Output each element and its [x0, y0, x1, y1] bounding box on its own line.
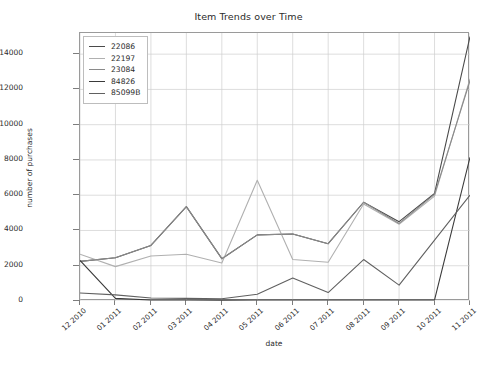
x-axis-label: date	[79, 339, 469, 348]
figure-canvas: Item Trends over Time number of purchase…	[0, 0, 497, 368]
y-axis-label: number of purchases	[22, 60, 36, 275]
legend-item-label: 85099B	[111, 89, 140, 97]
legend-swatch-icon	[89, 81, 105, 82]
legend-swatch-icon	[89, 46, 105, 47]
y-tick-label: 6000	[0, 189, 23, 198]
series-line-22197	[80, 79, 470, 267]
y-tick-label: 12000	[0, 83, 23, 92]
legend-item: 84826	[89, 76, 140, 88]
x-tick-label: 02 2011	[131, 306, 159, 333]
series-line-85099B	[80, 195, 470, 298]
legend-item: 22197	[89, 53, 140, 65]
legend-item: 23084	[89, 64, 140, 76]
x-tick-label: 11 2011	[450, 306, 478, 333]
legend-item-label: 23084	[111, 66, 135, 74]
legend-swatch-icon	[89, 69, 105, 70]
x-tick-label: 09 2011	[379, 306, 407, 333]
x-tick-label: 12 2010	[60, 306, 88, 333]
chart-title: Item Trends over Time	[0, 11, 497, 22]
legend-item-label: 84826	[111, 78, 135, 86]
legend-item-label: 22086	[111, 43, 135, 51]
y-tick-label: 8000	[0, 154, 23, 163]
x-tick-label: 01 2011	[95, 306, 123, 333]
series-line-23084	[80, 81, 470, 262]
legend-item: 22086	[89, 41, 140, 53]
x-tick-label: 04 2011	[202, 306, 230, 333]
x-tick-label: 08 2011	[344, 306, 372, 333]
x-tick-label: 06 2011	[273, 306, 301, 333]
chart-legend: 2208622197230848482685099B	[83, 36, 148, 104]
x-tick-label: 03 2011	[166, 306, 194, 333]
series-line-84826	[80, 157, 470, 300]
x-tick-label: 10 2011	[414, 306, 442, 333]
x-tick-label: 05 2011	[237, 306, 265, 333]
y-tick-label: 0	[0, 295, 23, 304]
legend-item-label: 22197	[111, 55, 135, 63]
legend-swatch-icon	[89, 58, 105, 59]
y-tick-label: 2000	[0, 260, 23, 269]
legend-swatch-icon	[89, 93, 105, 94]
x-tick-label: 07 2011	[308, 306, 336, 333]
legend-item: 85099B	[89, 87, 140, 99]
y-tick-label: 4000	[0, 224, 23, 233]
y-tick-label: 14000	[0, 48, 23, 57]
y-tick-label: 10000	[0, 119, 23, 128]
